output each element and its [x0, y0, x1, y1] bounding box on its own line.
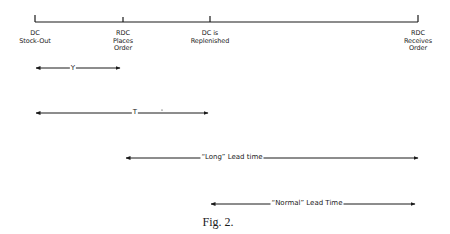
event-label-rdc-receives-order: RDC Receives Order: [404, 30, 432, 53]
interval-label-long-lead-time: “Long” Lead time: [200, 153, 263, 161]
event-label-dc-replenished: DC is Replenished: [191, 30, 230, 45]
interval-label-normal-lead-time: “Normal” Lead Time: [271, 199, 344, 207]
interval-label-t: T: [132, 108, 138, 116]
figure-caption: Fig. 2.: [202, 215, 233, 230]
event-label-dc-stock-out: DC Stock-Out: [19, 30, 50, 45]
main-timeline: [35, 15, 418, 22]
event-label-rdc-places-order: RDC Places Order: [113, 30, 133, 53]
interval-label-y: Y: [70, 64, 76, 72]
